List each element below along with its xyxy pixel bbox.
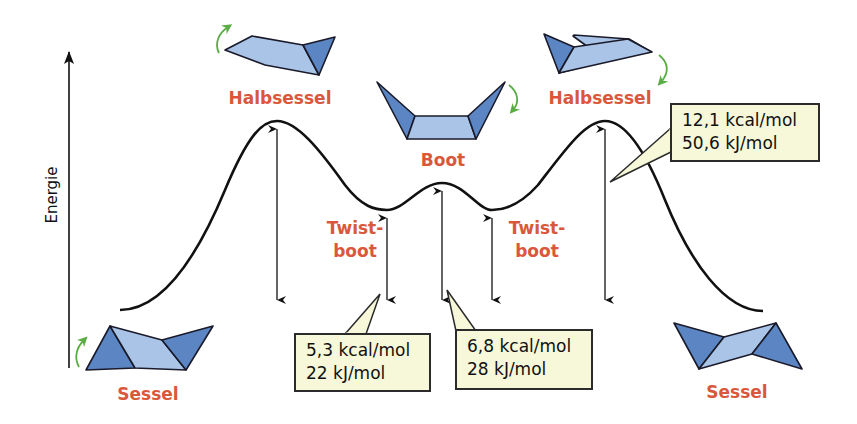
- cyclohexane-energy-diagram: Energie Halbsessel Boot Halbsessel Twist…: [0, 0, 857, 424]
- label-halbsessel-right: Halbsessel: [540, 88, 660, 108]
- energy-boot-kj: 28 kJ/mol: [467, 358, 583, 381]
- pointer-halbsessel-box: [610, 128, 671, 182]
- rotation-arrow-boot: [509, 85, 517, 110]
- halbsessel-left-molecule: [225, 36, 335, 75]
- label-halbsessel-left: Halbsessel: [220, 88, 340, 108]
- pointer-twistboot-box: [345, 294, 380, 334]
- energy-box-twistboot: 5,3 kcal/mol 22 kJ/mol: [294, 333, 431, 392]
- label-twistboot-right: Twist- boot: [497, 218, 577, 261]
- sessel-right-molecule: [674, 323, 802, 369]
- label-twistboot-right-line2: boot: [497, 241, 577, 261]
- boot-molecule: [377, 82, 505, 139]
- label-twistboot-right-line1: Twist-: [497, 218, 577, 238]
- energy-halbsessel-kj: 50,6 kJ/mol: [682, 132, 810, 155]
- halbsessel-right-molecule: [544, 34, 652, 73]
- label-twistboot-left: Twist- boot: [315, 218, 395, 261]
- label-boot: Boot: [403, 150, 483, 170]
- sessel-left-molecule: [86, 326, 213, 370]
- energy-box-halbsessel: 12,1 kcal/mol 50,6 kJ/mol: [670, 103, 820, 162]
- energy-halbsessel-kcal: 12,1 kcal/mol: [682, 109, 810, 132]
- rotation-arrow-sessel-left: [76, 340, 84, 367]
- pointer-boot-box: [447, 290, 476, 331]
- energy-twistboot-kcal: 5,3 kcal/mol: [306, 339, 421, 362]
- label-twistboot-left-line2: boot: [315, 241, 395, 261]
- label-sessel-left: Sessel: [108, 384, 188, 404]
- label-twistboot-left-line1: Twist-: [315, 218, 395, 238]
- energy-boot-kcal: 6,8 kcal/mol: [467, 335, 583, 358]
- rotation-arrow-halbsessel-right: [659, 55, 667, 82]
- label-sessel-right: Sessel: [697, 382, 777, 402]
- energy-box-boot: 6,8 kcal/mol 28 kJ/mol: [455, 329, 593, 390]
- energy-axis-label: Energie: [43, 165, 61, 225]
- energy-twistboot-kj: 22 kJ/mol: [306, 362, 421, 385]
